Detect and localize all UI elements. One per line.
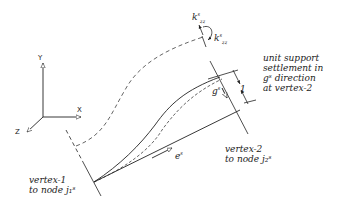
k-top-label: kszz — [192, 11, 205, 24]
e-label: es — [175, 150, 183, 161]
unit-value-label: 1 — [240, 84, 246, 94]
deflected-dashed-shape — [94, 79, 222, 182]
coordinate-axes — [27, 63, 81, 132]
settlement-note: unit support settlement in gˢ direction … — [263, 53, 323, 93]
z-axis-arrow — [27, 117, 43, 132]
y-axis-label: Y — [38, 54, 42, 62]
k-right-label: kszz — [214, 32, 227, 45]
vertex2-label: vertex-2 to node j₂ˢ — [225, 144, 272, 164]
x-axis-label: X — [77, 106, 82, 114]
e-direction-arrow — [152, 148, 172, 158]
diagram-canvas: Y X Z kszz kszz gs 1 es unit support set… — [0, 0, 350, 214]
vertex2-support-line — [210, 61, 248, 134]
k-stiffness-indicator — [199, 25, 212, 47]
vertex1-label: vertex-1 to node j₁ˢ — [29, 175, 76, 195]
z-axis-label: Z — [15, 128, 20, 136]
g-label: gs — [212, 85, 220, 96]
member-chord — [94, 110, 240, 182]
rotated-dashed-shape — [76, 37, 203, 146]
